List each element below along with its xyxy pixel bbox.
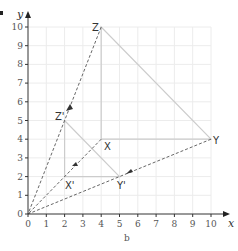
y-tick: 7 bbox=[17, 78, 23, 88]
point-label-x-prime: X' bbox=[65, 180, 75, 191]
y-tick: 5 bbox=[17, 116, 23, 126]
x-tick: 2 bbox=[62, 219, 68, 229]
x-tick: 4 bbox=[98, 219, 104, 229]
x-tick: 10 bbox=[205, 219, 217, 229]
x-tick: 1 bbox=[43, 219, 49, 229]
y-tick: 4 bbox=[17, 134, 23, 144]
arrow-icon bbox=[126, 169, 133, 174]
y-tick: 1 bbox=[17, 190, 23, 200]
y-tick: 10 bbox=[12, 22, 24, 32]
y-tick: 0 bbox=[17, 209, 23, 219]
y-tick: 3 bbox=[17, 153, 23, 163]
x-tick: 5 bbox=[117, 219, 123, 229]
y-tick: 2 bbox=[17, 172, 23, 182]
point-label-y-prime: Y' bbox=[116, 180, 126, 191]
y-axis-label: y bbox=[16, 8, 24, 21]
x-tick: 7 bbox=[153, 219, 159, 229]
point-label-y: Y bbox=[212, 135, 220, 146]
x-axis-label: x bbox=[228, 217, 235, 230]
y-axis-arrow-icon bbox=[25, 11, 31, 18]
x-tick: 6 bbox=[135, 219, 141, 229]
arrow-icon bbox=[66, 104, 73, 111]
y-tick-labels: 0 1 2 3 4 5 6 7 8 9 10 bbox=[12, 22, 24, 219]
y-tick: 8 bbox=[17, 59, 23, 69]
x-tick: 3 bbox=[80, 219, 86, 229]
corner-marker bbox=[0, 11, 3, 15]
y-tick: 6 bbox=[17, 97, 23, 107]
y-tick: 9 bbox=[17, 41, 23, 51]
point-label-z-prime: Z' bbox=[55, 111, 65, 122]
point-label-z: Z bbox=[92, 22, 99, 33]
x-tick: 8 bbox=[172, 219, 178, 229]
arrow-icon bbox=[72, 162, 78, 166]
x-tick: 9 bbox=[190, 219, 196, 229]
x-tick-labels: 0 1 2 3 4 5 6 7 8 9 10 bbox=[25, 219, 217, 229]
x-tick: 0 bbox=[25, 219, 31, 229]
enlargement-diagram: 0 1 2 3 4 5 6 7 8 9 10 0 1 2 3 4 5 6 7 8… bbox=[0, 0, 238, 251]
point-label-x: X bbox=[104, 141, 111, 152]
figure-caption: b bbox=[124, 233, 130, 243]
